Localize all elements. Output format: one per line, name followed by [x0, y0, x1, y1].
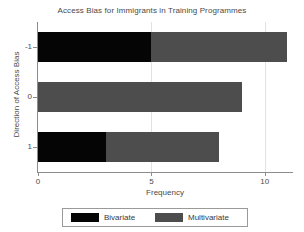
x-tick-mark-10 — [265, 172, 266, 176]
bar-group--1 — [38, 32, 292, 62]
y-tick-label--1: -1 — [25, 42, 32, 51]
x-axis-title: Frequency — [38, 188, 292, 197]
bar-segment-multivariate-1 — [106, 132, 219, 162]
chart-legend: BivariateMultivariate — [62, 208, 248, 227]
legend-entry-multivariate: Multivariate — [155, 209, 229, 226]
x-tick-label-5: 5 — [149, 177, 153, 186]
x-tick-label-10: 10 — [260, 177, 269, 186]
x-axis-line — [37, 172, 293, 173]
y-tick-mark--1 — [33, 47, 37, 48]
bar-segment-bivariate-1 — [38, 132, 106, 162]
legend-label-multivariate: Multivariate — [188, 213, 229, 222]
y-tick-label-0: 0 — [28, 92, 32, 101]
bar-segment-multivariate--1 — [151, 32, 287, 62]
bar-segment-multivariate-0 — [38, 82, 242, 112]
bar-chart: Access Bias for Immigrants in Training P… — [0, 0, 304, 232]
legend-swatch-multivariate — [155, 213, 183, 222]
y-tick-mark-1 — [33, 147, 37, 148]
legend-label-bivariate: Bivariate — [104, 213, 135, 222]
legend-entry-bivariate: Bivariate — [71, 209, 135, 226]
x-tick-label-0: 0 — [36, 177, 40, 186]
legend-swatch-bivariate — [71, 213, 99, 222]
y-tick-mark-0 — [33, 97, 37, 98]
plot-area — [38, 22, 292, 172]
chart-title: Access Bias for Immigrants in Training P… — [0, 6, 304, 15]
bar-group-1 — [38, 132, 292, 162]
x-tick-mark-0 — [38, 172, 39, 176]
bar-group-0 — [38, 82, 292, 112]
y-tick-label-1: 1 — [28, 142, 32, 151]
y-axis-title: Direction of Access Bias — [12, 25, 21, 165]
bar-segment-bivariate--1 — [38, 32, 151, 62]
x-tick-mark-5 — [151, 172, 152, 176]
